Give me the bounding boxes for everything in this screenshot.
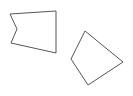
shapes-svg bbox=[0, 0, 133, 96]
diagram-canvas bbox=[0, 0, 133, 96]
